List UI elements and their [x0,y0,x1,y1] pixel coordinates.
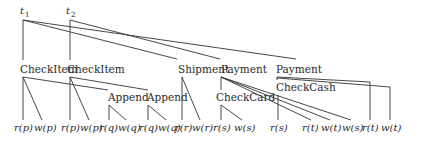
leaf-op: r(r) [175,122,192,133]
node-checkcard: CheckCard [216,91,276,103]
node-payment-2: Payment [276,63,323,75]
leaf-op: w(q) [118,122,141,133]
svg-text:2: 2 [71,11,75,19]
transaction-tree-diagram: t 1 t 2 CheckItem CheckItem Shipment Pay… [0,0,423,145]
diagram-canvas: t 1 t 2 CheckItem CheckItem Shipment Pay… [0,0,423,145]
node-append-1: Append [107,91,149,103]
leaf-op: r(q) [139,122,158,133]
leaf-op: w(r) [192,122,213,133]
leaf-op: r(q) [99,122,118,133]
leaf-op: r(t) [302,122,319,133]
leaf-op: w(t) [321,122,341,133]
root-edges [23,20,296,60]
leaf-op: w(p) [34,122,57,133]
leaf-op: r(t) [362,122,379,133]
leaf-op: w(s) [234,122,256,133]
root-t2: t 2 [66,5,75,19]
node-payment-1: Payment [221,63,268,75]
leaf-op: r(s) [213,122,231,133]
node-checkcash: CheckCash [276,81,336,93]
leaf-op: r(s) [270,122,288,133]
leaf-op: r(p) [14,122,33,133]
leaf-operations: r(p) w(p) r(p) w(p) r(q) w(q) r(q) w(q) … [14,122,401,133]
node-append-2: Append [146,91,188,103]
leaf-op: r(p) [61,122,80,133]
node-checkitem-2: CheckItem [67,63,125,75]
leaf-op: w(s) [342,122,364,133]
svg-text:1: 1 [25,11,29,19]
root-t1: t 1 [20,5,29,19]
leaf-op: w(t) [381,122,401,133]
